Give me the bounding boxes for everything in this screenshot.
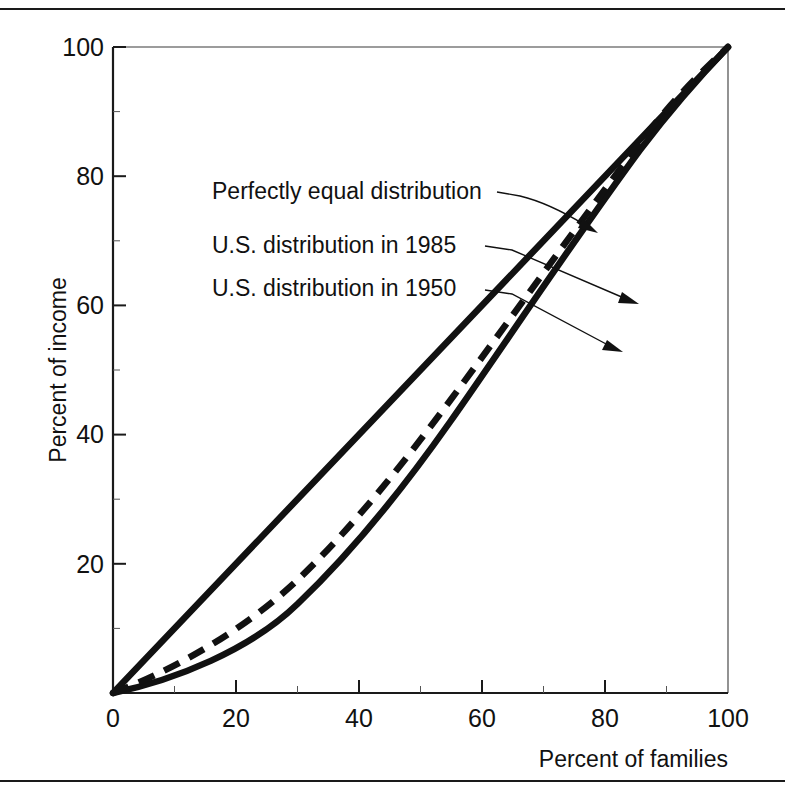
annotation-label-perfectly-equal: Perfectly equal distribution	[212, 178, 482, 204]
y-tick-label-20: 20	[76, 550, 104, 578]
x-tick-label-80: 80	[591, 704, 619, 732]
annotation-label-us-1985: U.S. distribution in 1985	[212, 232, 456, 258]
x-tick-labels: 0 20 40 60 80 100	[106, 704, 749, 732]
annotation-perfectly-equal: Perfectly equal distribution	[212, 178, 598, 233]
lorenz-curve-chart: 100 80 60 40 20 0 20 40 60 80 100 Percen…	[0, 0, 785, 793]
y-tick-label-80: 80	[76, 162, 104, 190]
x-tick-label-0: 0	[106, 704, 120, 732]
y-tick-label-100: 100	[62, 33, 104, 61]
x-tick-label-40: 40	[345, 704, 373, 732]
x-tick-label-20: 20	[222, 704, 250, 732]
bottom-rule	[0, 780, 785, 782]
x-axis-ticks	[175, 680, 667, 693]
y-axis-title: Percent of income	[45, 277, 71, 462]
annotation-us-1950: U.S. distribution in 1950	[212, 275, 623, 352]
x-tick-label-60: 60	[468, 704, 496, 732]
y-tick-label-60: 60	[76, 291, 104, 319]
top-rule	[0, 8, 785, 10]
annotation-leader-us-1950	[485, 290, 608, 345]
annotation-arrow-us-1985	[618, 292, 639, 304]
y-axis-ticks	[113, 47, 126, 628]
x-axis-title: Percent of families	[539, 746, 728, 772]
x-tick-label-100: 100	[707, 704, 749, 732]
annotation-arrow-us-1950	[602, 340, 623, 352]
annotation-label-us-1950: U.S. distribution in 1950	[212, 275, 456, 301]
y-tick-label-40: 40	[76, 420, 104, 448]
figure-container: 100 80 60 40 20 0 20 40 60 80 100 Percen…	[0, 0, 785, 793]
